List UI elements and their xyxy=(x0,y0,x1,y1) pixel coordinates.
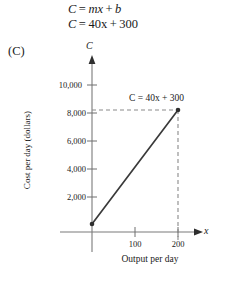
y-tick-label-10000: 10,000 xyxy=(48,80,82,90)
y-axis-variable-label: C xyxy=(86,40,93,51)
x-axis-title: Output per day xyxy=(95,254,205,264)
y-tick-label-6000: 6,000 xyxy=(52,136,86,146)
y-axis-title: Cost per day (dollars) xyxy=(22,90,32,210)
x-axis xyxy=(60,229,203,236)
x-axis-variable-label: x xyxy=(204,225,208,236)
y-tick-label-2000: 2,000 xyxy=(52,192,86,202)
y-tick-label-8000: 8,000 xyxy=(52,108,86,118)
data-point-end xyxy=(176,108,181,113)
cost-line-series xyxy=(90,108,181,227)
x-tick-label-100: 100 xyxy=(120,239,150,249)
data-point-start xyxy=(90,222,95,227)
guide-lines xyxy=(92,110,178,240)
x-tick-label-200: 200 xyxy=(163,239,193,249)
chart-plot-area: C x 10,000 8,000 6,000 4,000 2,000 100 2… xyxy=(0,0,227,283)
line-equation-annotation: C = 40x + 300 xyxy=(129,93,184,103)
y-tick-label-4000: 4,000 xyxy=(52,164,86,174)
